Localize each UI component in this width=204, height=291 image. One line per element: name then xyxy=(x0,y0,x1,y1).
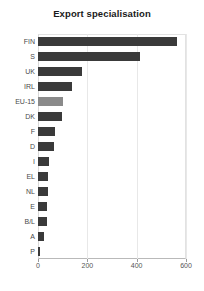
x-tick-label-0: 0 xyxy=(36,262,40,269)
bar-row: D xyxy=(38,139,186,154)
bar-row: F xyxy=(38,124,186,139)
y-axis-label-nl: NL xyxy=(26,188,35,195)
y-axis-label-e: E xyxy=(30,203,35,210)
y-axis-label-uk: UK xyxy=(25,68,35,75)
y-axis-label-f: F xyxy=(31,128,35,135)
bar-uk[interactable] xyxy=(38,67,82,76)
bar-el[interactable] xyxy=(38,172,48,181)
bar-row: I xyxy=(38,154,186,169)
y-axis-label-el: EL xyxy=(26,173,35,180)
x-tick-label-600: 600 xyxy=(180,262,192,269)
x-tick-label-400: 400 xyxy=(131,262,143,269)
bar-row: UK xyxy=(38,64,186,79)
bar-row: NL xyxy=(38,184,186,199)
y-axis-label-s: S xyxy=(30,53,35,60)
y-axis-label-eu-15: EU-15 xyxy=(15,98,35,105)
bar-row: IRL xyxy=(38,79,186,94)
bar-irl[interactable] xyxy=(38,82,72,91)
bar-row: A xyxy=(38,229,186,244)
bar-eu-15[interactable] xyxy=(38,97,63,106)
chart-container: Export specialisation FINSUKIRLEU-15DKFD… xyxy=(0,0,204,291)
bar-row: EU-15 xyxy=(38,94,186,109)
chart-title: Export specialisation xyxy=(0,8,204,19)
bar-p[interactable] xyxy=(38,247,40,256)
bar-row: S xyxy=(38,49,186,64)
bar-nl[interactable] xyxy=(38,187,48,196)
bar-row: EL xyxy=(38,169,186,184)
x-tick-label-200: 200 xyxy=(81,262,93,269)
bar-row: B/L xyxy=(38,214,186,229)
bar-fin[interactable] xyxy=(38,37,177,46)
bar-i[interactable] xyxy=(38,157,49,166)
bar-row: E xyxy=(38,199,186,214)
y-axis-label-d: D xyxy=(30,143,35,150)
bar-row: DK xyxy=(38,109,186,124)
bar-row: FIN xyxy=(38,34,186,49)
bar-b-l[interactable] xyxy=(38,217,47,226)
bar-row: P xyxy=(38,244,186,259)
bar-dk[interactable] xyxy=(38,112,62,121)
y-axis-label-irl: IRL xyxy=(24,83,35,90)
y-axis-label-i: I xyxy=(33,158,35,165)
gridline-600 xyxy=(186,34,187,259)
bar-s[interactable] xyxy=(38,52,140,61)
y-axis-label-fin: FIN xyxy=(24,38,35,45)
y-axis-label-a: A xyxy=(30,233,35,240)
y-axis-label-p: P xyxy=(30,248,35,255)
y-axis-label-dk: DK xyxy=(25,113,35,120)
bar-d[interactable] xyxy=(38,142,54,151)
bar-e[interactable] xyxy=(38,202,47,211)
bar-a[interactable] xyxy=(38,232,44,241)
bar-f[interactable] xyxy=(38,127,55,136)
plot-area: FINSUKIRLEU-15DKFDIELNLEB/LAP xyxy=(38,34,186,259)
y-axis-label-b-l: B/L xyxy=(24,218,35,225)
